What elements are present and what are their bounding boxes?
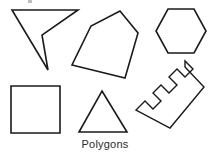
figure-canvas: Polygons: [0, 0, 212, 155]
shape-hexagon: [156, 9, 206, 53]
figure-caption: Polygons: [82, 138, 129, 150]
shape-square: [11, 86, 60, 133]
polygons-figure: Polygons: [0, 0, 212, 155]
page-edge-mark: [28, 0, 32, 3]
